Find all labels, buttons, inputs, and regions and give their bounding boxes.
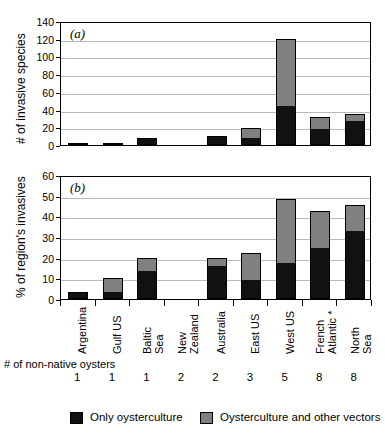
gridline (61, 198, 370, 199)
panel-b-plot-area (60, 176, 371, 300)
x-axis-label-line: Zealand (188, 314, 200, 354)
x-axis-label-line: Baltic (141, 327, 153, 354)
bar (68, 292, 88, 299)
panel-b: % of region's invasives 0102030405060 (b… (0, 0, 385, 436)
x-tick-mark (95, 300, 96, 306)
bar-segment-only-oysterculture (276, 263, 296, 299)
x-tick-mark (60, 300, 61, 306)
x-tick-mark (267, 300, 268, 306)
panel-b-label: (b) (70, 180, 85, 196)
x-tick-mark (129, 300, 130, 306)
legend-swatch-oysterculture-and-other-vectors (200, 412, 213, 424)
x-tick-mark (302, 300, 303, 306)
oyster-label-line-2: non-native (25, 358, 76, 370)
x-tick-mark (233, 300, 234, 306)
bar-segment-only-oysterculture (310, 248, 330, 299)
bar-segment-oysterculture-and-other-vectors (310, 211, 330, 248)
bar-segment-only-oysterculture (207, 266, 227, 299)
x-axis-label-west-us: West US (284, 311, 296, 354)
x-axis-label-line: New (176, 314, 188, 354)
x-axis-label-line: Atlantic * (326, 311, 338, 354)
legend-swatch-only-oysterculture (70, 412, 83, 424)
bar-segment-only-oysterculture (68, 292, 88, 299)
bar (137, 258, 157, 299)
x-axis-label-gulf-us: Gulf US (111, 315, 123, 354)
bar-segment-oysterculture-and-other-vectors (103, 278, 123, 291)
x-axis-label-argentina: Argentina (76, 307, 88, 354)
oyster-label-line-1: # of (4, 358, 22, 370)
oyster-count-value: 1 (143, 371, 149, 383)
x-axis-label-line: North (349, 327, 361, 354)
legend-label-only-oysterculture: Only oysterculture (90, 411, 183, 423)
bar-segment-oysterculture-and-other-vectors (137, 258, 157, 271)
bar-segment-only-oysterculture (345, 231, 365, 299)
x-axis-label-line: West US (284, 311, 296, 354)
bar (276, 199, 296, 299)
y-tick-label: 10 (24, 274, 54, 284)
bar-segment-only-oysterculture (103, 292, 123, 299)
y-tick-label: 20 (24, 254, 54, 264)
y-tick-label: 60 (24, 171, 54, 181)
oyster-count-value: 1 (109, 371, 115, 383)
x-axis-label-north-sea: NorthSea (349, 327, 373, 354)
x-tick-mark (164, 300, 165, 306)
oyster-count-value: 3 (247, 371, 253, 383)
bar (103, 278, 123, 299)
x-axis-label-east-us: East US (249, 314, 261, 354)
bar (345, 205, 365, 299)
oyster-count-value: 5 (281, 371, 287, 383)
x-axis-label-line: Gulf US (111, 315, 123, 354)
y-tick-label: 30 (24, 233, 54, 243)
y-tick-label: 40 (24, 212, 54, 222)
bar (241, 253, 261, 299)
bar-segment-oysterculture-and-other-vectors (276, 199, 296, 263)
bar-segment-oysterculture-and-other-vectors (241, 253, 261, 280)
x-axis-label-baltic-sea: BalticSea (141, 327, 165, 354)
x-axis-label-line: Australia (215, 311, 227, 354)
oyster-count-value: 8 (316, 371, 322, 383)
bar (310, 211, 330, 299)
x-tick-mark (371, 300, 372, 306)
y-tick-label: 0 (24, 295, 54, 305)
bar-segment-oysterculture-and-other-vectors (345, 205, 365, 230)
x-axis-label-australia: Australia (215, 311, 227, 354)
oyster-count-value: 8 (351, 371, 357, 383)
oyster-count-row-label: # of non-native oysters (4, 358, 115, 370)
x-axis-label-line: Sea (153, 327, 165, 354)
x-tick-mark (336, 300, 337, 306)
oyster-count-value: 2 (212, 371, 218, 383)
x-axis-label-line: Sea (361, 327, 373, 354)
x-axis-label-new-zealand: NewZealand (176, 314, 200, 354)
x-axis-label-line: Argentina (76, 307, 88, 354)
x-tick-mark (198, 300, 199, 306)
bar-segment-oysterculture-and-other-vectors (207, 258, 227, 266)
bar-segment-only-oysterculture (241, 280, 261, 299)
x-axis-label-line: French (314, 311, 326, 354)
figure-root: # of invasive species 020406080100120140… (0, 0, 385, 436)
bar-segment-only-oysterculture (137, 271, 157, 299)
x-axis-label-line: East US (249, 314, 261, 354)
legend-label-oysterculture-and-other-vectors: Oysterculture and other vectors (220, 411, 380, 423)
x-axis-label-french-atlantic: FrenchAtlantic * (314, 311, 338, 354)
oyster-count-value: 2 (178, 371, 184, 383)
y-tick-label: 50 (24, 192, 54, 202)
bar (207, 258, 227, 299)
oyster-label-line-3: oysters (80, 358, 115, 370)
oyster-count-value: 1 (74, 371, 80, 383)
